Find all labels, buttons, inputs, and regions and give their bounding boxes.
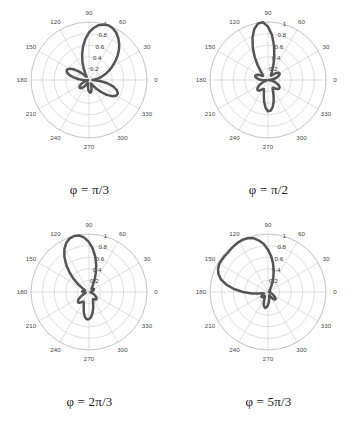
- panel-phi-pi-over-2: 03060901201501802102402703003300.20.40.6…: [179, 0, 358, 212]
- angle-tick-label: 0: [154, 288, 158, 295]
- angle-tick-label: 270: [84, 143, 95, 150]
- angle-tick-label: 300: [296, 134, 307, 141]
- angle-tick-label: 0: [333, 76, 337, 83]
- radial-tick-label: 1: [283, 232, 287, 239]
- angle-tick-label: 330: [321, 110, 332, 117]
- angle-tick-label: 150: [205, 43, 216, 50]
- panel-phi-5pi-over-3: 03060901201501802102402703003300.20.40.6…: [179, 212, 358, 424]
- angle-tick-label: 210: [26, 110, 37, 117]
- angle-tick-label: 240: [229, 134, 240, 141]
- radial-tick-label: 0.6: [275, 255, 284, 262]
- angle-tick-label: 270: [263, 355, 274, 362]
- polar-plot-phi-5pi-over-3: 03060901201501802102402703003300.20.40.6…: [179, 212, 358, 392]
- angle-tick-label: 120: [50, 18, 61, 25]
- angle-tick-label: 30: [144, 43, 151, 50]
- polar-data-curve: [218, 238, 275, 308]
- angle-tick-label: 120: [50, 230, 61, 237]
- angle-tick-label: 60: [298, 18, 305, 25]
- polar-plot-phi-pi-over-2: 03060901201501802102402703003300.20.40.6…: [179, 0, 358, 180]
- grid-spoke: [89, 80, 139, 109]
- angle-tick-label: 210: [205, 110, 216, 117]
- angle-tick-label: 330: [142, 322, 153, 329]
- angle-tick-label: 60: [298, 230, 305, 237]
- radial-tick-label: 0.4: [93, 54, 102, 61]
- angle-tick-label: 90: [265, 221, 272, 228]
- panel-phi-2pi-over-3: 03060901201501802102402703003300.20.40.6…: [0, 212, 179, 424]
- polar-radiation-pattern-figure: 03060901201501802102402703003300.20.40.6…: [0, 0, 358, 424]
- grid-spoke: [239, 242, 268, 292]
- angle-tick-label: 180: [196, 76, 207, 83]
- angle-tick-label: 90: [86, 9, 93, 16]
- angle-tick-label: 180: [196, 288, 207, 295]
- radial-tick-label: 0.8: [98, 243, 107, 250]
- radial-tick-label: 1: [104, 232, 108, 239]
- radial-tick-label: 0.4: [93, 266, 102, 273]
- radial-tick-label: 0.6: [275, 43, 284, 50]
- angle-tick-label: 210: [205, 322, 216, 329]
- angle-tick-label: 300: [117, 346, 128, 353]
- caption-phi-pi-over-2: φ = π/2: [179, 182, 358, 198]
- panel-phi-pi-over-3: 03060901201501802102402703003300.20.40.6…: [0, 0, 179, 212]
- angle-tick-label: 240: [50, 134, 61, 141]
- angle-tick-label: 180: [17, 288, 28, 295]
- angle-tick-label: 300: [117, 134, 128, 141]
- angle-tick-label: 120: [229, 230, 240, 237]
- radial-tick-label: 0.2: [90, 65, 99, 72]
- angle-tick-label: 240: [50, 346, 61, 353]
- angle-tick-label: 0: [333, 288, 337, 295]
- caption-phi-5pi-over-3: φ = 5π/3: [179, 394, 358, 410]
- angle-tick-label: 150: [205, 255, 216, 262]
- grid-spoke: [218, 263, 268, 292]
- angle-tick-label: 270: [84, 355, 95, 362]
- angle-tick-label: 180: [17, 76, 28, 83]
- grid-spoke: [239, 80, 268, 130]
- angle-tick-label: 60: [119, 18, 126, 25]
- angle-tick-label: 120: [229, 18, 240, 25]
- angle-tick-label: 330: [142, 110, 153, 117]
- radial-tick-label: 0.6: [96, 255, 105, 262]
- grid-spoke: [268, 80, 318, 109]
- angle-tick-label: 330: [321, 322, 332, 329]
- angle-tick-label: 30: [144, 255, 151, 262]
- radial-tick-label: 0.8: [277, 31, 286, 38]
- polar-plot-phi-2pi-over-3: 03060901201501802102402703003300.20.40.6…: [0, 212, 179, 392]
- polar-plot-phi-pi-over-3: 03060901201501802102402703003300.20.40.6…: [0, 0, 179, 180]
- angle-tick-label: 90: [265, 9, 272, 16]
- angle-tick-label: 30: [323, 255, 330, 262]
- radial-tick-label: 0.8: [98, 31, 107, 38]
- radial-tick-label: 0.8: [277, 243, 286, 250]
- radial-tick-label: 0.6: [96, 43, 105, 50]
- angle-tick-label: 300: [296, 346, 307, 353]
- angle-tick-label: 150: [26, 255, 37, 262]
- angle-tick-label: 30: [323, 43, 330, 50]
- caption-phi-pi-over-3: φ = π/3: [0, 182, 179, 198]
- angle-tick-label: 240: [229, 346, 240, 353]
- radial-tick-label: 1: [283, 20, 287, 27]
- angle-tick-label: 150: [26, 43, 37, 50]
- angle-tick-label: 90: [86, 221, 93, 228]
- angle-tick-label: 210: [26, 322, 37, 329]
- angle-tick-label: 0: [154, 76, 158, 83]
- angle-tick-label: 270: [263, 143, 274, 150]
- angle-tick-label: 60: [119, 230, 126, 237]
- caption-phi-2pi-over-3: φ = 2π/3: [0, 394, 179, 410]
